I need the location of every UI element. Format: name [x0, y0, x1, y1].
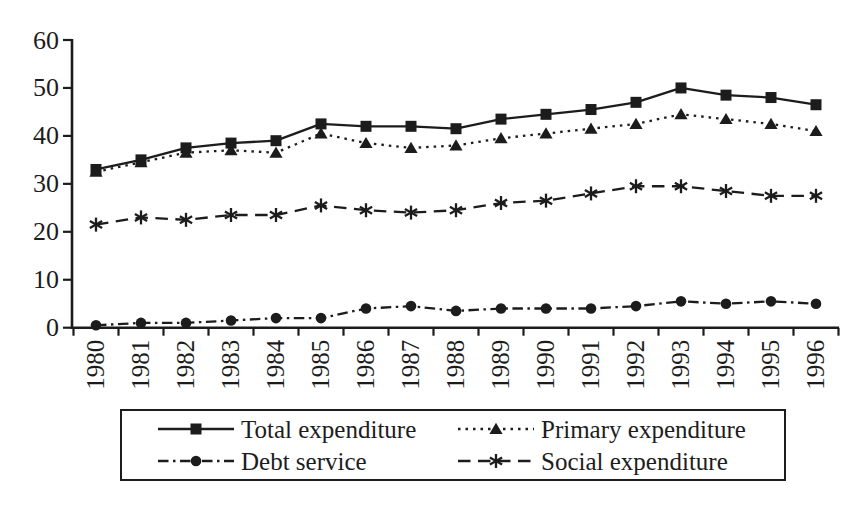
- legend-label-total-expenditure: Total expenditure: [241, 417, 416, 442]
- svg-text:1994: 1994: [713, 339, 740, 390]
- legend-item-primary-expenditure: Primary expenditure: [458, 417, 784, 442]
- legend-swatch-primary-expenditure: [458, 417, 534, 441]
- svg-text:1990: 1990: [533, 340, 560, 390]
- svg-text:1980: 1980: [83, 340, 110, 390]
- svg-text:40: 40: [33, 121, 59, 150]
- legend-item-debt-service: Debt service: [158, 449, 458, 474]
- svg-text:1992: 1992: [623, 340, 650, 390]
- svg-text:1987: 1987: [398, 340, 425, 390]
- svg-text:1982: 1982: [173, 340, 200, 390]
- svg-text:1981: 1981: [128, 340, 155, 390]
- chart-figure: 0102030405060198019811982198319841985198…: [0, 0, 860, 515]
- svg-text:10: 10: [33, 265, 59, 294]
- svg-text:1993: 1993: [668, 340, 695, 390]
- chart-plot-area: 0102030405060198019811982198319841985198…: [0, 0, 860, 405]
- svg-text:1985: 1985: [308, 340, 335, 390]
- legend-item-total-expenditure: Total expenditure: [158, 417, 458, 442]
- svg-text:1996: 1996: [803, 340, 830, 390]
- chart-legend: Total expenditure Primary expenditure De…: [120, 409, 786, 481]
- legend-label-debt-service: Debt service: [241, 449, 367, 474]
- svg-text:1986: 1986: [353, 340, 380, 390]
- legend-label-primary-expenditure: Primary expenditure: [541, 417, 746, 442]
- svg-text:1989: 1989: [488, 340, 515, 390]
- svg-text:50: 50: [33, 73, 59, 102]
- legend-swatch-debt-service: [158, 449, 234, 473]
- legend-swatch-social-expenditure: [458, 449, 534, 473]
- svg-text:1991: 1991: [578, 340, 605, 390]
- legend-swatch-total-expenditure: [158, 417, 234, 441]
- legend-item-social-expenditure: Social expenditure: [458, 449, 784, 474]
- svg-text:60: 60: [33, 26, 59, 55]
- svg-text:1984: 1984: [263, 339, 290, 390]
- svg-text:30: 30: [33, 169, 59, 198]
- svg-text:1983: 1983: [218, 340, 245, 390]
- svg-text:20: 20: [33, 217, 59, 246]
- svg-text:1988: 1988: [443, 340, 470, 390]
- legend-label-social-expenditure: Social expenditure: [541, 449, 728, 474]
- svg-text:0: 0: [46, 313, 59, 342]
- svg-text:1995: 1995: [758, 340, 785, 390]
